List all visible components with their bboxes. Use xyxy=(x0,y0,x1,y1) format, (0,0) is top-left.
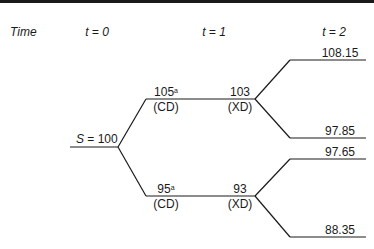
down-xd-value: 93 xyxy=(233,182,246,196)
root-node-label: S = 100 xyxy=(76,132,118,146)
time-label: Time xyxy=(10,25,37,39)
up-cd-label: (CD) xyxy=(153,100,178,114)
t2-label: t = 2 xyxy=(322,25,346,39)
up-xd-value: 103 xyxy=(230,85,250,99)
up-xd-label: (XD) xyxy=(228,100,253,114)
node-dd-value: 88.35 xyxy=(325,223,355,237)
down-cd-label: (CD) xyxy=(153,197,178,211)
binomial-tree-lines xyxy=(0,0,374,249)
node-uu-value: 108.15 xyxy=(322,46,359,60)
down-xd-label: (XD) xyxy=(228,197,253,211)
down-cd-value: 95a xyxy=(157,182,174,196)
t1-label: t = 1 xyxy=(202,25,226,39)
node-du-value: 97.65 xyxy=(325,145,355,159)
node-ud-value: 97.85 xyxy=(325,124,355,138)
t0-label: t = 0 xyxy=(85,25,109,39)
up-cd-value: 105a xyxy=(154,85,178,99)
